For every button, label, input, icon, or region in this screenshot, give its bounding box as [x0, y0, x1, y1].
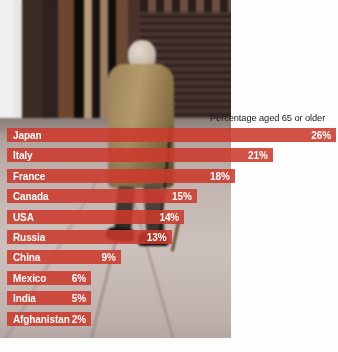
bar-value-label: 13%: [147, 231, 167, 244]
bar-fill: [7, 128, 336, 142]
bar-category-label: France: [13, 170, 45, 183]
bar-value-label: 5%: [72, 292, 86, 305]
bar-row[interactable]: Afghanistan2%: [7, 312, 91, 326]
bar-row[interactable]: Mexico6%: [7, 271, 91, 285]
bar-category-label: Japan: [13, 129, 41, 142]
bar-row[interactable]: Canada15%: [7, 189, 197, 203]
bar-row[interactable]: Italy21%: [7, 148, 273, 162]
bar-category-label: Italy: [13, 149, 33, 162]
bar-row[interactable]: China9%: [7, 250, 121, 264]
bar-value-label: 18%: [210, 170, 230, 183]
bar-fill: [7, 148, 273, 162]
bar-row[interactable]: USA14%: [7, 210, 184, 224]
infographic: Percentage aged 65 or older Japan26%Ital…: [0, 0, 338, 352]
chart-axis-title: Percentage aged 65 or older: [210, 113, 325, 123]
bar-value-label: 15%: [172, 190, 192, 203]
bar-category-label: Canada: [13, 190, 49, 203]
bar-value-label: 2%: [72, 313, 86, 326]
bar-row[interactable]: France18%: [7, 169, 235, 183]
bar-value-label: 9%: [102, 251, 116, 264]
bar-category-label: China: [13, 251, 40, 264]
bar-value-label: 14%: [159, 211, 179, 224]
bar-value-label: 6%: [72, 272, 86, 285]
bar-category-label: Russia: [13, 231, 45, 244]
bar-row[interactable]: Russia13%: [7, 230, 172, 244]
bar-value-label: 26%: [311, 129, 331, 142]
bar-category-label: Afghanistan: [13, 313, 70, 326]
bar-category-label: USA: [13, 211, 34, 224]
bar-value-label: 21%: [248, 149, 268, 162]
bar-row[interactable]: Japan26%: [7, 128, 336, 142]
bar-category-label: India: [13, 292, 36, 305]
bar-category-label: Mexico: [13, 272, 46, 285]
bar-chart: Percentage aged 65 or older Japan26%Ital…: [0, 0, 338, 352]
bar-row[interactable]: India5%: [7, 291, 91, 305]
